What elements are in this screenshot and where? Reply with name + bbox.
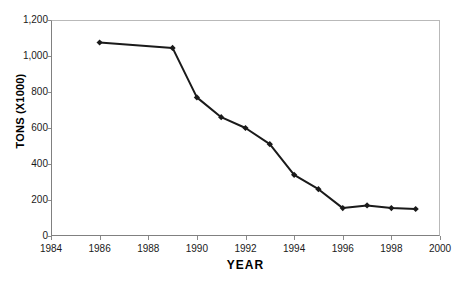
x-axis-tick-mark bbox=[294, 236, 295, 240]
x-axis-title: YEAR bbox=[51, 258, 440, 272]
y-axis-tick-mark bbox=[47, 92, 51, 93]
y-axis-tick-mark bbox=[47, 128, 51, 129]
y-axis-tick-label: 0 bbox=[0, 231, 48, 241]
x-axis-tick-mark bbox=[391, 236, 392, 240]
x-axis-tick-label: 2000 bbox=[418, 244, 458, 254]
y-axis-tick-label: 1,200 bbox=[0, 15, 48, 25]
chart-figure: 02004006008001,0001,200 1984198619881990… bbox=[0, 0, 458, 281]
plot-area bbox=[51, 20, 440, 236]
x-axis-tick-label: 1992 bbox=[224, 244, 268, 254]
x-axis-tick-mark bbox=[100, 236, 101, 240]
x-axis-tick-label: 1998 bbox=[369, 244, 413, 254]
x-axis-tick-mark bbox=[343, 236, 344, 240]
x-axis-tick-label: 1990 bbox=[175, 244, 219, 254]
y-axis-tick-mark bbox=[47, 164, 51, 165]
x-axis-tick-label: 1984 bbox=[29, 244, 73, 254]
x-axis-tick-mark bbox=[197, 236, 198, 240]
x-axis-tick-label: 1996 bbox=[321, 244, 365, 254]
y-axis-tick-label: 200 bbox=[0, 195, 48, 205]
x-axis-tick-mark bbox=[440, 236, 441, 240]
x-axis-tick-mark bbox=[148, 236, 149, 240]
x-axis-tick-label: 1994 bbox=[272, 244, 316, 254]
y-axis-tick-mark bbox=[47, 200, 51, 201]
x-axis-tick-mark bbox=[246, 236, 247, 240]
x-axis-tick-mark bbox=[51, 236, 52, 240]
y-axis-title: TONS (X1000) bbox=[14, 41, 26, 181]
x-axis-tick-label: 1988 bbox=[126, 244, 170, 254]
x-axis-tick-label: 1986 bbox=[78, 244, 122, 254]
y-axis-tick-mark bbox=[47, 56, 51, 57]
y-axis-tick-mark bbox=[47, 20, 51, 21]
clipped-header-text bbox=[0, 0, 458, 7]
